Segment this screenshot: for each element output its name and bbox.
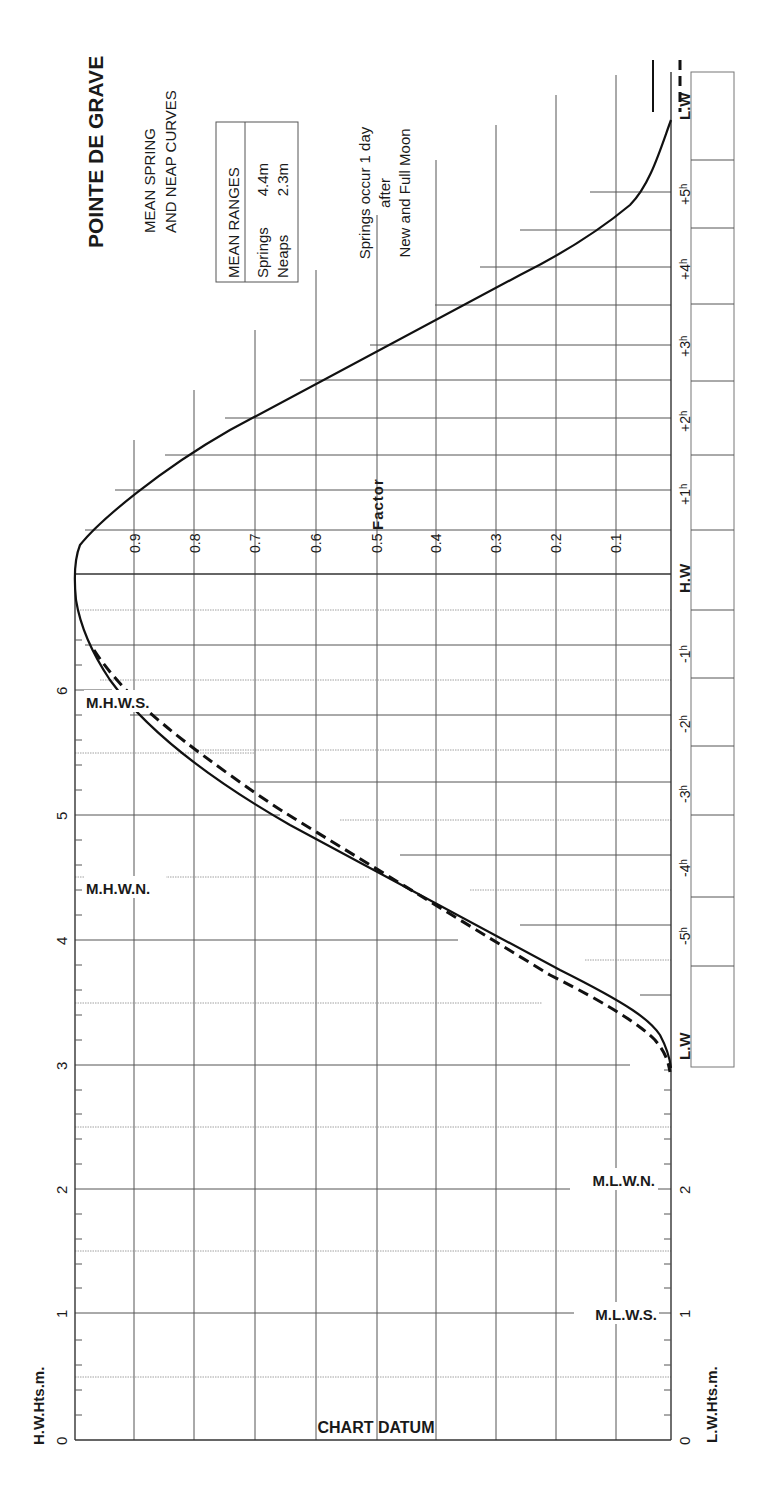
neap-curve <box>94 650 670 1072</box>
note-line1: Springs occur 1 day <box>356 126 373 259</box>
factor-tick: 0.9 <box>127 533 143 553</box>
factor-grid <box>75 75 671 1440</box>
time-label: +3ʰ <box>677 336 693 357</box>
level-mhws: M.H.W.S. <box>86 694 149 711</box>
time-label: -1ʰ <box>677 645 693 663</box>
hw-tick: 4 <box>53 937 70 945</box>
ranges-neaps-value: 2.3m <box>274 163 291 196</box>
time-label: -2ʰ <box>677 715 693 733</box>
chart-datum-label: CHART DATUM <box>317 1419 434 1436</box>
lw-tick: 0 <box>676 1437 693 1445</box>
factor-tick: 0.3 <box>488 533 504 553</box>
factor-tick: 0.1 <box>608 533 624 553</box>
ranges-springs-value: 4.4m <box>254 163 271 196</box>
factor-tick: 0.4 <box>428 533 444 553</box>
factor-tick: 0.7 <box>247 533 263 553</box>
subtitle-line1: MEAN SPRING <box>141 128 158 233</box>
time-label: -3ʰ <box>677 785 693 803</box>
note-line3: New and Full Moon <box>396 128 413 257</box>
spring-curve <box>75 120 671 1068</box>
level-mlws: M.L.W.S. <box>595 1306 657 1323</box>
hw-axis-ticks <box>75 640 82 1415</box>
time-label-lw-top: L.W <box>676 92 693 120</box>
hw-tick: 0 <box>53 1437 70 1445</box>
factor-label: Factor <box>369 478 386 530</box>
time-label: +5ʰ <box>677 184 693 205</box>
time-label: +1ʰ <box>677 484 693 505</box>
hw-tick: 6 <box>53 687 70 695</box>
time-label: +2ʰ <box>677 411 693 432</box>
hw-tick: 3 <box>53 1062 70 1070</box>
time-label: +4ʰ <box>677 259 693 280</box>
height-grid <box>75 690 671 1440</box>
hw-axis-label: H.W.Hts.m. <box>30 1367 47 1445</box>
hw-tick: 5 <box>53 812 70 820</box>
ranges-springs-name: Springs <box>254 227 271 278</box>
tidal-curve-chart: POINTE DE GRAVE MEAN SPRING AND NEAP CUR… <box>0 0 768 1496</box>
hw-tick: 1 <box>53 1310 70 1318</box>
time-label: -4ʰ <box>677 859 693 877</box>
factor-tick: 0.2 <box>548 533 564 553</box>
factor-tick: 0.8 <box>187 533 203 553</box>
hw-tick: 2 <box>53 1186 70 1194</box>
level-mhwn: M.H.W.N. <box>86 880 150 897</box>
lw-axis-label: L.W.Hts.m. <box>703 1366 720 1443</box>
note-line2: after <box>376 178 393 208</box>
lw-tick: 2 <box>676 1186 693 1194</box>
lw-tick: 1 <box>676 1310 693 1318</box>
time-label: -5ʰ <box>677 927 693 945</box>
ranges-header: MEAN RANGES <box>225 167 242 278</box>
lw-axis-ticks <box>664 1070 671 1415</box>
level-mlwn: M.L.W.N. <box>593 1172 656 1189</box>
time-label-lw-bottom: L.W <box>676 1032 693 1060</box>
chart-title: POINTE DE GRAVE <box>84 56 107 248</box>
factor-tick: 0.5 <box>369 533 385 553</box>
factor-tick: 0.6 <box>308 533 324 553</box>
hour-table <box>691 72 734 1067</box>
time-label-hw: H.W <box>676 563 693 593</box>
ranges-neaps-name: Neaps <box>274 235 291 278</box>
subtitle-line2: AND NEAP CURVES <box>162 90 179 233</box>
